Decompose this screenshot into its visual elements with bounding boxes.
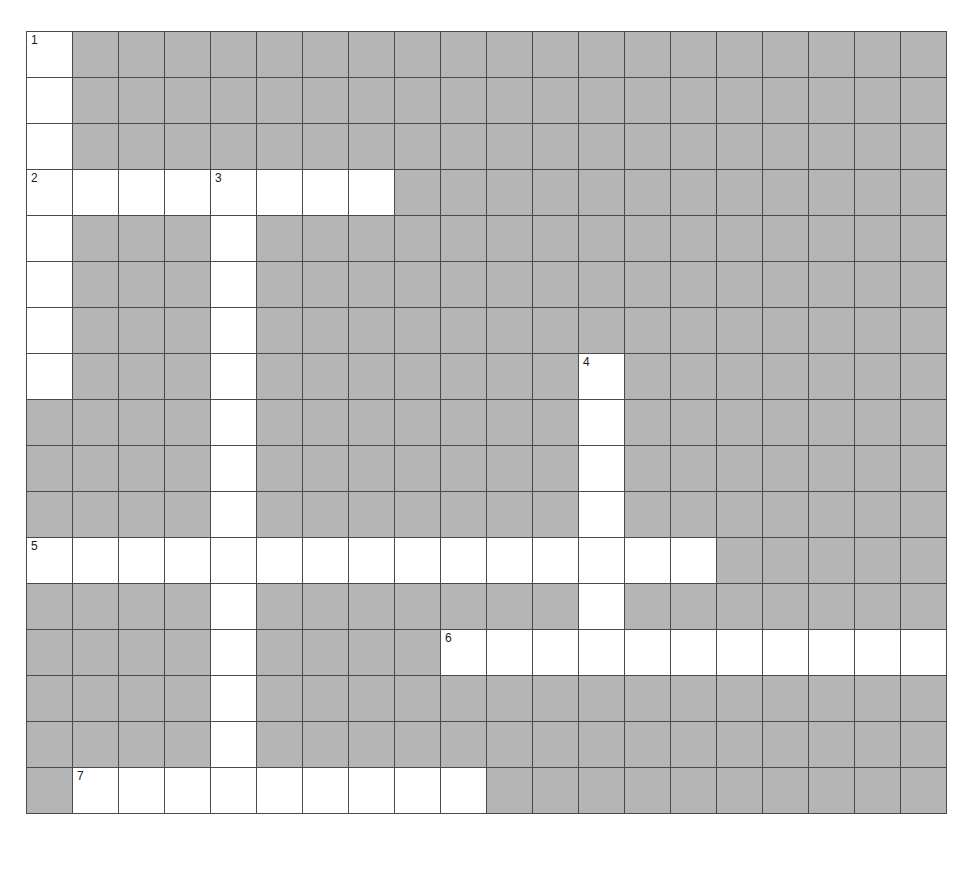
crossword-cell-open[interactable] <box>579 538 625 584</box>
crossword-cell-open[interactable]: 6 <box>441 630 487 676</box>
crossword-cell-open[interactable] <box>579 630 625 676</box>
crossword-cell-open[interactable] <box>487 630 533 676</box>
crossword-cell-block <box>763 78 809 124</box>
crossword-cell-block <box>717 124 763 170</box>
crossword-cell-open[interactable] <box>27 124 73 170</box>
crossword-cell-open[interactable] <box>211 400 257 446</box>
crossword-cell-open[interactable] <box>625 538 671 584</box>
crossword-cell-open[interactable] <box>349 768 395 814</box>
crossword-cell-block <box>809 78 855 124</box>
crossword-cell-open[interactable] <box>119 170 165 216</box>
crossword-cell-open[interactable]: 7 <box>73 768 119 814</box>
crossword-cell-block <box>441 308 487 354</box>
crossword-cell-open[interactable] <box>809 630 855 676</box>
crossword-cell-open[interactable] <box>27 262 73 308</box>
crossword-cell-open[interactable] <box>211 630 257 676</box>
crossword-cell-open[interactable] <box>211 492 257 538</box>
crossword-cell-open[interactable] <box>27 308 73 354</box>
crossword-cell-block <box>671 354 717 400</box>
crossword-cell-open[interactable] <box>211 446 257 492</box>
crossword-cell-block <box>119 584 165 630</box>
crossword-cell-block <box>855 354 901 400</box>
crossword-cell-open[interactable] <box>579 584 625 630</box>
crossword-cell-open[interactable] <box>73 170 119 216</box>
crossword-cell-open[interactable] <box>901 630 947 676</box>
crossword-cell-open[interactable] <box>763 630 809 676</box>
cell-number-3: 3 <box>215 171 222 185</box>
crossword-cell-open[interactable]: 3 <box>211 170 257 216</box>
crossword-cell-open[interactable] <box>303 538 349 584</box>
crossword-cell-open[interactable] <box>165 538 211 584</box>
crossword-cell-open[interactable]: 2 <box>27 170 73 216</box>
crossword-cell-block <box>855 216 901 262</box>
crossword-cell-open[interactable] <box>349 170 395 216</box>
crossword-cell-block <box>579 262 625 308</box>
crossword-cell-open[interactable] <box>533 630 579 676</box>
crossword-cell-open[interactable] <box>487 538 533 584</box>
crossword-cell-open[interactable] <box>211 538 257 584</box>
crossword-cell-open[interactable] <box>27 354 73 400</box>
crossword-cell-open[interactable] <box>119 538 165 584</box>
crossword-cell-open[interactable] <box>257 768 303 814</box>
crossword-cell-open[interactable] <box>625 630 671 676</box>
crossword-cell-open[interactable] <box>211 262 257 308</box>
crossword-cell-block <box>625 216 671 262</box>
crossword-cell-open[interactable] <box>395 768 441 814</box>
crossword-cell-open[interactable]: 1 <box>27 32 73 78</box>
crossword-cell-block <box>855 308 901 354</box>
crossword-cell-block <box>27 630 73 676</box>
crossword-cell-open[interactable]: 5 <box>27 538 73 584</box>
crossword-cell-open[interactable] <box>73 538 119 584</box>
crossword-cell-open[interactable] <box>303 170 349 216</box>
crossword-cell-block <box>809 446 855 492</box>
crossword-cell-open[interactable] <box>211 676 257 722</box>
crossword-cell-open[interactable] <box>211 354 257 400</box>
crossword-cell-block <box>487 722 533 768</box>
crossword-cell-open[interactable] <box>855 630 901 676</box>
crossword-cell-open[interactable] <box>671 630 717 676</box>
crossword-row <box>27 124 947 170</box>
crossword-cell-block <box>441 354 487 400</box>
crossword-cell-block <box>395 630 441 676</box>
crossword-cell-open[interactable] <box>211 308 257 354</box>
crossword-cell-block <box>27 676 73 722</box>
crossword-cell-open[interactable] <box>257 170 303 216</box>
crossword-row: 4 <box>27 354 947 400</box>
crossword-cell-open[interactable] <box>165 768 211 814</box>
crossword-cell-open[interactable] <box>211 584 257 630</box>
crossword-cell-open[interactable] <box>211 768 257 814</box>
crossword-cell-open[interactable] <box>579 400 625 446</box>
crossword-cell-block <box>763 768 809 814</box>
crossword-cell-open[interactable] <box>671 538 717 584</box>
crossword-cell-block <box>119 676 165 722</box>
crossword-cell-block <box>855 722 901 768</box>
crossword-cell-open[interactable] <box>533 538 579 584</box>
crossword-cell-open[interactable] <box>717 630 763 676</box>
crossword-cell-open[interactable] <box>349 538 395 584</box>
crossword-cell-block <box>441 216 487 262</box>
crossword-cell-open[interactable] <box>579 446 625 492</box>
crossword-cell-block <box>441 170 487 216</box>
crossword-cell-open[interactable] <box>303 768 349 814</box>
crossword-cell-block <box>395 78 441 124</box>
crossword-cell-open[interactable]: 4 <box>579 354 625 400</box>
crossword-cell-open[interactable] <box>211 216 257 262</box>
crossword-cell-block <box>809 308 855 354</box>
crossword-cell-open[interactable] <box>27 78 73 124</box>
crossword-cell-open[interactable] <box>211 722 257 768</box>
crossword-grid[interactable]: 1234567 <box>26 31 947 814</box>
crossword-cell-open[interactable] <box>395 538 441 584</box>
crossword-cell-open[interactable] <box>257 538 303 584</box>
crossword-cell-block <box>809 538 855 584</box>
crossword-cell-block <box>257 354 303 400</box>
crossword-cell-block <box>165 676 211 722</box>
crossword-cell-open[interactable] <box>441 538 487 584</box>
crossword-cell-block <box>165 262 211 308</box>
crossword-cell-open[interactable] <box>165 170 211 216</box>
crossword-cell-open[interactable] <box>119 768 165 814</box>
crossword-cell-open[interactable] <box>27 216 73 262</box>
crossword-cell-block <box>119 78 165 124</box>
crossword-cell-open[interactable] <box>579 492 625 538</box>
crossword-cell-block <box>303 400 349 446</box>
crossword-cell-open[interactable] <box>441 768 487 814</box>
